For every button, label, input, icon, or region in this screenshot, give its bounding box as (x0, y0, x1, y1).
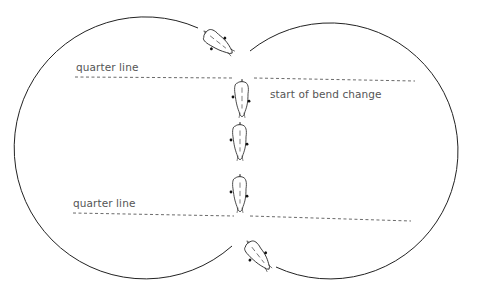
quarter-line-top-left (75, 77, 233, 78)
quarter-line-top-right (254, 78, 415, 81)
figure-svg (0, 0, 478, 293)
quarter-line-bottom-label: quarter line (73, 197, 135, 209)
quarter-line-top-label: quarter line (76, 61, 138, 73)
quarter-line-bottom-left (73, 213, 234, 216)
horse-icon-2 (232, 79, 251, 118)
bend-change-label: start of bend change (270, 88, 382, 100)
horse-icon-5 (238, 235, 276, 276)
quarter-line-bottom-right (250, 216, 411, 221)
left-circle (14, 17, 232, 279)
horse-icon-4 (230, 174, 249, 213)
diagram-canvas: quarter line start of bend change quarte… (0, 0, 478, 293)
horse-icon-3 (230, 122, 249, 161)
horse-icon-1 (197, 24, 238, 62)
right-circle (250, 23, 458, 279)
